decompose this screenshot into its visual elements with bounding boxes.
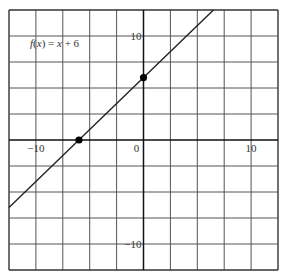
coordinate-plane: 10 −10 −10 10 0 f(x) = x + 6 (0, 0, 287, 277)
equals: = (45, 37, 57, 49)
x-intercept-point (75, 136, 82, 143)
x-tick-label-10: 10 (246, 142, 258, 154)
function-label: f(x) = x + 6 (30, 37, 80, 50)
y-tick-label-10: 10 (131, 30, 143, 42)
rhs-constant: + 6 (62, 37, 80, 49)
origin-label: 0 (134, 142, 140, 154)
axes (9, 10, 278, 270)
y-intercept-point (140, 74, 147, 81)
y-tick-label-neg10: −10 (124, 238, 142, 250)
x-tick-label-neg10: −10 (27, 142, 45, 154)
